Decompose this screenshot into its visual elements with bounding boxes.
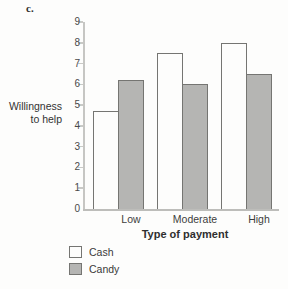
y-tick-label: 3 — [56, 142, 80, 152]
bar-cash-moderate — [157, 53, 183, 209]
y-axis-title: Willingness to help — [0, 100, 62, 126]
y-tick-label: 2 — [56, 162, 80, 172]
bar-candy-low — [118, 80, 144, 209]
y-tick-label: 1 — [56, 183, 80, 193]
legend-swatch-candy — [69, 263, 82, 275]
y-tick-label: 7 — [56, 59, 80, 69]
x-category-label-moderate: Moderate — [163, 213, 227, 225]
x-category-label-low: Low — [99, 213, 163, 225]
panel-label: c. — [26, 2, 34, 14]
y-tick-label: 5 — [56, 100, 80, 110]
y-tick-label: 9 — [56, 17, 80, 27]
y-axis-line — [83, 22, 85, 209]
x-axis-line — [83, 209, 279, 211]
y-tick-label: 8 — [56, 38, 80, 48]
x-axis-title: Type of payment — [123, 228, 247, 240]
figure-panel-c: c. Willingness to help Type of payment C… — [0, 0, 288, 289]
legend-item-candy: Candy — [69, 260, 119, 277]
legend-label-candy: Candy — [89, 263, 119, 275]
y-tick-label: 4 — [56, 121, 80, 131]
bar-candy-moderate — [182, 84, 208, 209]
legend-swatch-cash — [69, 246, 82, 258]
legend-item-cash: Cash — [69, 243, 119, 260]
bar-candy-high — [246, 74, 272, 209]
legend-label-cash: Cash — [89, 246, 114, 258]
y-tick-label: 0 — [56, 204, 80, 214]
plot-area — [83, 22, 279, 209]
bar-cash-high — [221, 43, 247, 209]
bar-cash-low — [93, 111, 119, 209]
x-category-label-high: High — [227, 213, 288, 225]
y-tick-label: 6 — [56, 79, 80, 89]
legend: CashCandy — [69, 243, 119, 277]
